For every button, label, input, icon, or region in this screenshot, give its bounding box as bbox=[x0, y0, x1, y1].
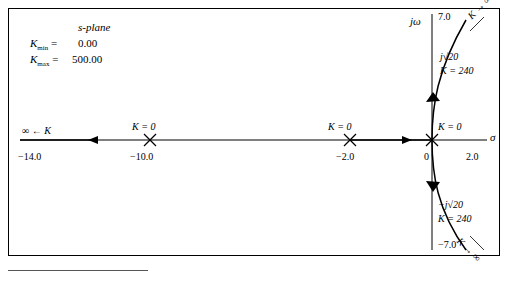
imaginary-axis-label: jω bbox=[410, 16, 421, 27]
tick-label-minus2: −2.0 bbox=[336, 152, 354, 162]
tick-label-minus14: −14.0 bbox=[18, 152, 41, 162]
k-zero-label-pole10: K = 0 bbox=[132, 122, 155, 132]
tick-label-minus10: −10.0 bbox=[130, 152, 153, 162]
kmax-label: Kmax = bbox=[30, 54, 58, 68]
k-zero-label-pole2: K = 0 bbox=[328, 122, 351, 132]
arrow-upper-branch bbox=[426, 92, 440, 102]
arrow-left-branch bbox=[88, 136, 98, 144]
tick-label-two: 2.0 bbox=[466, 152, 479, 162]
s-plane-label: s-plane bbox=[78, 22, 110, 33]
kmax-subscript: max bbox=[37, 60, 49, 68]
figure-root: s-plane Kmin = 0.00 Kmax = 500.00 jω σ 7… bbox=[0, 0, 518, 283]
tick-label-minus7: −7.0 bbox=[438, 240, 456, 250]
tick-label-zero: 0 bbox=[424, 152, 429, 162]
kmin-subscript: min bbox=[37, 44, 48, 52]
left-infinity-label: ∞ ← K bbox=[22, 126, 51, 136]
footer-rule bbox=[8, 270, 148, 271]
kmax-value: 500.00 bbox=[72, 54, 102, 65]
locus-lower-branch bbox=[432, 140, 466, 250]
breakin-lower-value: −j√20 bbox=[438, 200, 463, 210]
arrow-middle-segment bbox=[402, 136, 412, 144]
breakin-upper-value: j√20 bbox=[440, 52, 458, 62]
kmin-value: 0.00 bbox=[78, 38, 97, 49]
tick-label-7: 7.0 bbox=[438, 12, 451, 22]
k-zero-label-origin: K = 0 bbox=[438, 122, 461, 132]
breakin-lower-gain: K = 240 bbox=[438, 214, 471, 224]
kmin-label: Kmin = bbox=[30, 38, 57, 52]
breakin-upper-gain: K = 240 bbox=[440, 66, 473, 76]
real-axis-label: σ bbox=[490, 132, 495, 143]
